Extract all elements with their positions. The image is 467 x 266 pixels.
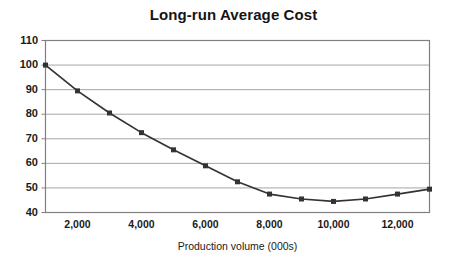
plot-frame: [42, 41, 430, 213]
data-point-marker: [363, 196, 368, 201]
data-point-marker: [235, 179, 240, 184]
chart-container: Long-run Average Cost 405060708090100110…: [0, 0, 467, 266]
x-axis-tick-label: 6,000: [176, 219, 236, 230]
data-point-marker: [331, 199, 336, 204]
x-axis-tick-label: 8,000: [240, 219, 300, 230]
y-axis-tick-label: 60: [4, 157, 38, 168]
data-point-marker: [43, 63, 48, 68]
y-axis-tick-label: 80: [4, 108, 38, 119]
data-point-marker: [427, 187, 432, 192]
gridlines-group: [46, 65, 430, 188]
y-axis-tick-label: 100: [4, 59, 38, 70]
y-axis-tick-label: 90: [4, 84, 38, 95]
data-point-marker: [203, 163, 208, 168]
data-point-marker: [267, 192, 272, 197]
y-axis-tick-label: 50: [4, 182, 38, 193]
x-axis-title: Production volume (000s): [45, 240, 430, 252]
y-axis-tick-label: 110: [4, 35, 38, 46]
y-axis-tick-label: 40: [4, 207, 38, 218]
data-point-marker: [299, 196, 304, 201]
data-point-marker: [171, 147, 176, 152]
data-point-marker: [107, 110, 112, 115]
plot-border: [46, 41, 430, 213]
x-axis-tick-label: 4,000: [112, 219, 172, 230]
data-point-marker: [75, 88, 80, 93]
series-markers-long-run-average-cost: [43, 63, 432, 204]
data-point-marker: [139, 130, 144, 135]
data-point-marker: [395, 192, 400, 197]
x-axis-tick-label: 2,000: [48, 219, 108, 230]
x-axis-tick-label: 12,000: [368, 219, 428, 230]
x-axis-tick-label: 10,000: [304, 219, 364, 230]
y-axis-tick-label: 70: [4, 133, 38, 144]
